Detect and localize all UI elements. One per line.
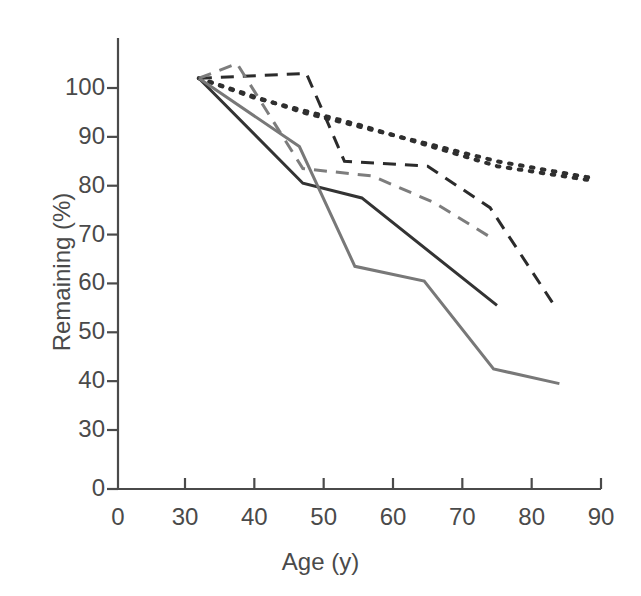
series-line-dark-dashed bbox=[199, 73, 556, 308]
series-line-dotted-upper bbox=[199, 78, 594, 178]
x-axis-tick-label: 70 bbox=[422, 503, 502, 531]
y-axis-ticks bbox=[107, 88, 118, 489]
series-line-dark-solid bbox=[199, 78, 497, 305]
x-axis-title: Age (y) bbox=[0, 548, 641, 576]
x-axis-tick-label: 90 bbox=[561, 503, 641, 531]
x-axis-tick-label: 80 bbox=[492, 503, 572, 531]
y-axis-title: Remaining (%) bbox=[48, 193, 75, 352]
y-axis-title-wrapper: Remaining (%) bbox=[48, 92, 76, 452]
x-axis-tick-label: 40 bbox=[214, 503, 294, 531]
series-line-dotted-lower bbox=[199, 78, 594, 181]
chart-figure: 030405060708090100 030405060708090 Remai… bbox=[0, 0, 641, 596]
y-axis-tick-label: 0 bbox=[20, 474, 105, 502]
x-axis-tick-label: 50 bbox=[284, 503, 364, 531]
x-axis-tick-label: 60 bbox=[353, 503, 433, 531]
x-axis-tick-label: 30 bbox=[145, 503, 225, 531]
x-axis-ticks bbox=[185, 478, 601, 489]
series-line-gray-solid bbox=[199, 78, 560, 383]
data-series-group bbox=[199, 64, 594, 384]
